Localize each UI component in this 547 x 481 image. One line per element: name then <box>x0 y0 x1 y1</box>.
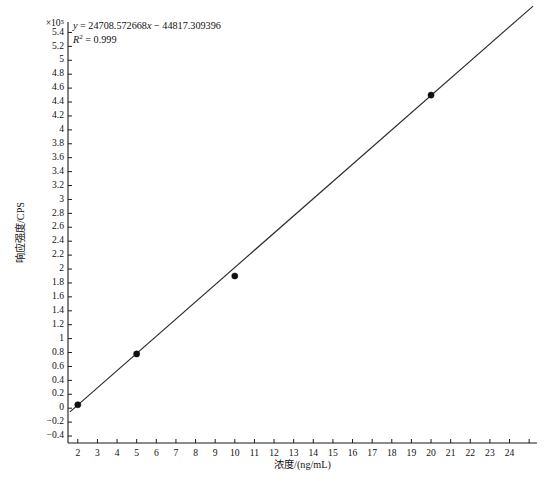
y-axis-tick-label: 4.8 <box>52 67 64 78</box>
x-axis-tick-label: 2 <box>75 447 80 458</box>
y-axis-tick-label: 5.2 <box>52 40 64 51</box>
y-axis-tick-label: 4.4 <box>52 95 64 106</box>
x-axis-tick-label: 16 <box>348 447 358 458</box>
y-axis-tick-label: 5 <box>59 53 64 64</box>
x-axis-tick-label: 3 <box>95 447 100 458</box>
x-axis-tick-label: 22 <box>465 447 475 458</box>
r-squared-label: R2 = 0.999 <box>72 33 117 45</box>
x-axis-tick-label: 14 <box>308 447 318 458</box>
x-axis-tick-label: 11 <box>250 447 259 458</box>
x-axis-tick-label: 21 <box>446 447 456 458</box>
plot-generated-content: −0.4−0.200.20.40.60.811.21.41.61.822.22.… <box>14 6 537 471</box>
y-axis-tick-label: 0.4 <box>52 374 64 385</box>
y-axis-tick-label: 3.6 <box>52 151 64 162</box>
y-axis-tick-label: 1.2 <box>52 318 64 329</box>
y-axis-tick-label: 3.2 <box>52 179 64 190</box>
x-axis-tick-label: 7 <box>174 447 179 458</box>
y-axis-tick-label: 3 <box>59 193 64 204</box>
y-axis-tick-label: 3.8 <box>52 137 64 148</box>
y-axis-tick-label: 2 <box>59 262 64 273</box>
x-axis-tick-label: 15 <box>328 447 338 458</box>
y-axis-tick-label: 3.4 <box>52 165 64 176</box>
regression-line <box>70 6 533 412</box>
y-axis-tick-label: 0 <box>59 401 64 412</box>
y-axis-tick-label: 4.6 <box>52 81 64 92</box>
y-axis-tick-label: 1.6 <box>52 290 64 301</box>
y-axis-tick-label: 2.4 <box>52 234 64 245</box>
data-point-marker <box>134 351 140 357</box>
y-axis-tick-label: 0.6 <box>52 360 64 371</box>
y-axis-tick-label: 1.4 <box>52 304 64 315</box>
x-axis-tick-label: 8 <box>193 447 198 458</box>
x-axis-tick-label: 12 <box>269 447 279 458</box>
data-point-marker <box>428 92 434 98</box>
y-axis-tick-label: 0.2 <box>52 387 64 398</box>
y-axis-title: 响应强度/CPS <box>14 202 26 263</box>
x-axis-tick-label: 20 <box>426 447 436 458</box>
x-axis-tick-label: 6 <box>154 447 159 458</box>
x-axis-tick-label: 19 <box>407 447 417 458</box>
regression-chart: −0.4−0.200.20.40.60.811.21.41.61.822.22.… <box>0 0 547 481</box>
x-axis-tick-label: 10 <box>230 447 240 458</box>
x-axis-title: 浓度/(ng/mL) <box>274 458 331 471</box>
y-axis-tick-label: 0.8 <box>52 346 64 357</box>
plot-area: −0.4−0.200.20.40.60.811.21.41.61.822.22.… <box>0 0 547 481</box>
y-axis-tick-label: 4 <box>59 123 64 134</box>
y-axis-tick-label: 2.2 <box>52 248 64 259</box>
y-axis-tick-label: 4.2 <box>52 109 64 120</box>
x-axis-tick-label: 5 <box>134 447 139 458</box>
x-axis-tick-label: 17 <box>367 447 377 458</box>
y-axis-tick-label: 1.8 <box>52 276 64 287</box>
y-axis-exponent-label: ×10⁵ <box>46 17 64 28</box>
y-axis-tick-label: 1 <box>59 332 64 343</box>
data-point-marker <box>75 402 81 408</box>
x-axis-tick-label: 18 <box>387 447 397 458</box>
regression-equation-label: y = 24708.572668x − 44817.309396 <box>72 20 221 31</box>
x-axis-tick-label: 13 <box>289 447 299 458</box>
x-axis-tick-label: 9 <box>213 447 218 458</box>
y-axis-tick-label: 2.8 <box>52 207 64 218</box>
x-axis-tick-label: 4 <box>115 447 120 458</box>
y-axis-tick-label: −0.4 <box>47 429 65 440</box>
data-point-marker <box>232 273 238 279</box>
x-axis-tick-label: 24 <box>505 447 515 458</box>
x-axis-tick-label: 23 <box>485 447 495 458</box>
y-axis-tick-label: −0.2 <box>47 415 65 426</box>
y-axis-tick-label: 2.6 <box>52 220 64 231</box>
